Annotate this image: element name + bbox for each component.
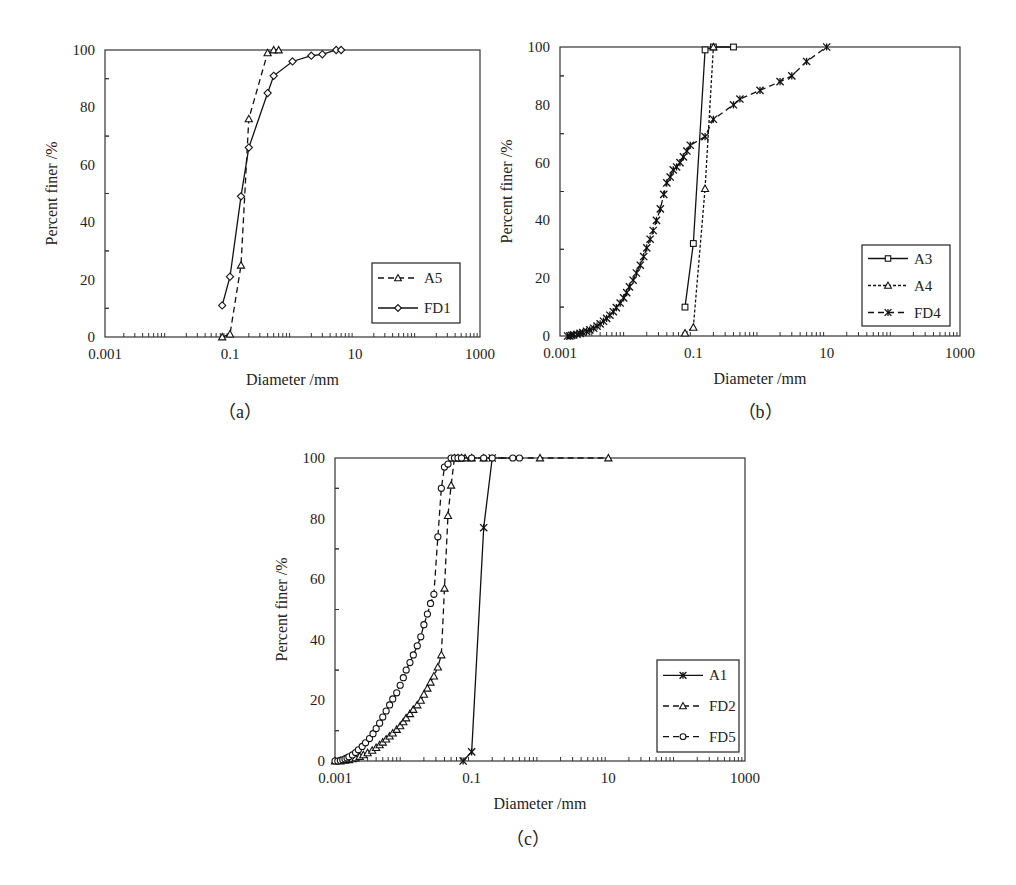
y-tick-label: 40	[80, 214, 95, 230]
series-a3	[682, 44, 736, 310]
x-tick-label: 10	[819, 345, 834, 361]
x-axis-label: Diameter /mm	[246, 371, 339, 388]
y-tick-label: 80	[80, 99, 95, 115]
y-axis-label: Percent finer /%	[43, 142, 60, 246]
y-tick-label: 20	[535, 270, 550, 286]
y-tick-label: 100	[528, 39, 551, 55]
chart-panel-a: 0204060801000.0010.1101000Diameter /mmPe…	[43, 42, 495, 422]
x-tick-label: 10	[348, 346, 363, 362]
y-tick-label: 60	[310, 571, 325, 587]
panel-caption: （c）	[506, 829, 550, 849]
legend-label: A3	[914, 251, 932, 267]
figure: 0204060801000.0010.1101000Diameter /mmPe…	[0, 0, 1016, 885]
series-a5	[219, 46, 283, 339]
legend: A1FD2FD5	[657, 660, 739, 752]
y-tick-label: 40	[535, 212, 550, 228]
x-tick-label: 0.1	[221, 346, 240, 362]
chart-panel-c: 0204060801000.0010.1101000Diameter /mmPe…	[273, 450, 760, 849]
y-tick-label: 0	[543, 328, 551, 344]
y-axis-label: Percent finer /%	[273, 558, 290, 662]
x-tick-label: 0.1	[684, 345, 703, 361]
y-axis-label: Percent finer /%	[498, 140, 515, 244]
x-tick-label: 0.001	[543, 345, 577, 361]
y-tick-label: 20	[310, 692, 325, 708]
legend: A5FD1	[372, 263, 460, 323]
y-tick-label: 100	[73, 42, 96, 58]
y-tick-label: 0	[88, 329, 96, 345]
x-tick-label: 0.1	[462, 770, 481, 786]
legend-label: A1	[709, 667, 727, 683]
x-tick-label: 1000	[730, 770, 760, 786]
series-a1	[460, 454, 496, 764]
x-axis-label: Diameter /mm	[714, 370, 807, 387]
x-tick-label: 0.001	[318, 770, 352, 786]
series-fd1	[219, 46, 345, 309]
x-tick-label: 10	[601, 770, 616, 786]
series-fd5	[332, 455, 523, 764]
legend-label: FD4	[914, 305, 941, 321]
panel-caption: （a）	[218, 402, 262, 422]
y-tick-label: 60	[535, 155, 550, 171]
y-tick-label: 40	[310, 632, 325, 648]
legend-label: A4	[914, 278, 933, 294]
y-tick-label: 80	[310, 511, 325, 527]
x-tick-label: 0.001	[88, 346, 122, 362]
legend-label: A5	[424, 270, 442, 286]
legend-label: FD2	[709, 698, 736, 714]
y-tick-label: 20	[80, 272, 95, 288]
x-tick-label: 1000	[945, 345, 975, 361]
y-tick-label: 0	[318, 753, 326, 769]
legend-label: FD1	[424, 300, 451, 316]
legend: A3A4FD4	[862, 245, 950, 326]
y-tick-label: 80	[535, 97, 550, 113]
chart-panel-b: 0204060801000.0010.1101000Diameter /mmPe…	[498, 39, 975, 422]
y-tick-label: 60	[80, 157, 95, 173]
series-fd2	[331, 454, 612, 763]
legend-label: FD5	[709, 729, 736, 745]
y-tick-label: 100	[303, 450, 326, 466]
x-axis-label: Diameter /mm	[494, 795, 587, 812]
x-tick-label: 1000	[465, 346, 495, 362]
panel-caption: （b）	[738, 402, 783, 422]
